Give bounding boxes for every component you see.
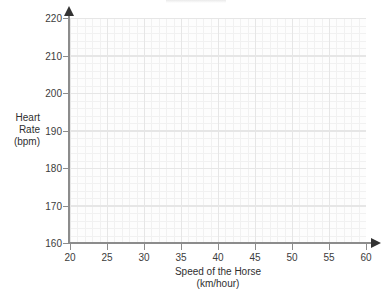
x-tick-mark <box>144 244 145 250</box>
plot-area-grid <box>70 18 366 243</box>
x-tick-label-20: 20 <box>55 252 85 263</box>
y-tick-label-160: 160 <box>32 238 62 249</box>
x-axis-arrow-icon <box>371 238 381 248</box>
y-tick-label-220: 220 <box>32 13 62 24</box>
x-tick-label-50: 50 <box>277 252 307 263</box>
y-tick-mark <box>63 168 69 169</box>
y-tick-label-200: 200 <box>32 88 62 99</box>
x-axis-title: Speed of the Horse (km/hour) <box>70 266 366 290</box>
x-tick-mark <box>366 244 367 250</box>
x-tick-label-30: 30 <box>129 252 159 263</box>
y-tick-label-170: 170 <box>32 201 62 212</box>
x-axis-title-line-1: Speed of the Horse <box>70 266 366 278</box>
y-tick-label-180: 180 <box>32 163 62 174</box>
x-tick-mark <box>181 244 182 250</box>
x-tick-label-55: 55 <box>314 252 344 263</box>
x-tick-mark <box>329 244 330 250</box>
y-tick-mark <box>63 18 69 19</box>
y-tick-mark <box>63 93 69 94</box>
y-tick-mark <box>63 243 69 244</box>
y-axis-title: Heart Rate (bpm) <box>2 112 40 148</box>
x-tick-mark <box>70 244 71 250</box>
y-tick-mark <box>63 131 69 132</box>
x-tick-mark <box>107 244 108 250</box>
y-axis-arrow-icon <box>64 6 74 16</box>
y-tick-mark <box>63 56 69 57</box>
y-tick-mark <box>63 206 69 207</box>
y-axis-line <box>68 14 70 244</box>
cropped-title-sliver <box>166 0 226 3</box>
y-axis-title-line-1: Heart <box>2 112 40 124</box>
x-tick-label-25: 25 <box>92 252 122 263</box>
x-tick-mark <box>218 244 219 250</box>
x-axis-line <box>68 242 372 244</box>
y-axis-title-line-3: (bpm) <box>2 136 40 148</box>
x-tick-label-35: 35 <box>166 252 196 263</box>
x-tick-mark <box>255 244 256 250</box>
x-tick-label-45: 45 <box>240 252 270 263</box>
y-tick-label-210: 210 <box>32 51 62 62</box>
x-tick-mark <box>292 244 293 250</box>
chart-figure: 220 210 200 190 180 170 160 20 25 30 35 … <box>0 0 392 301</box>
y-axis-title-line-2: Rate <box>2 124 40 136</box>
x-axis-title-line-2: (km/hour) <box>70 278 366 290</box>
x-tick-label-60: 60 <box>351 252 381 263</box>
x-tick-label-40: 40 <box>203 252 233 263</box>
